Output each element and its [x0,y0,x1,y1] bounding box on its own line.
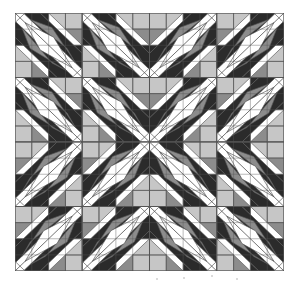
quilt-patch-light [200,126,217,142]
quilt-patch-light [267,207,284,223]
quilt-patch-light [65,78,82,94]
quilt-patch-light [133,190,150,206]
artifact-dot [156,278,158,280]
quilt-patch-light [133,78,150,94]
quilt-patch-light [267,61,284,77]
quilt-patch-light [150,13,167,29]
quilt-artwork [15,13,284,271]
quilt-patch-light [133,13,150,29]
quilt-patch-light [82,61,99,77]
quilt-patch-light [82,126,99,142]
quilt-patch-light [200,207,217,223]
quilt-patch-light [65,190,82,206]
quilt-patch-light [217,78,234,94]
quilt-patch-light [267,142,284,158]
artifact-dot [183,277,185,279]
quilt-patch-light [200,61,217,77]
quilt-patch-light [200,142,217,158]
artifact-dot [211,275,213,277]
scan-artifacts [0,268,298,284]
quilt-patch-light [15,142,32,158]
quilt-patch-light [82,207,99,223]
quilt-patch-light [15,126,32,142]
quilt-patch-light [217,13,234,29]
quilt-patch-light [150,190,167,206]
quilt-patch-light [15,61,32,77]
quilt-patch-light [267,126,284,142]
quilt-patch-light [217,190,234,206]
quilt-canvas [15,13,284,271]
quilt-patch-light [150,78,167,94]
quilt-patch-light [15,207,32,223]
quilt-patch-light [82,142,99,158]
quilt-patch-light [65,13,82,29]
artifact-dot [236,278,238,280]
